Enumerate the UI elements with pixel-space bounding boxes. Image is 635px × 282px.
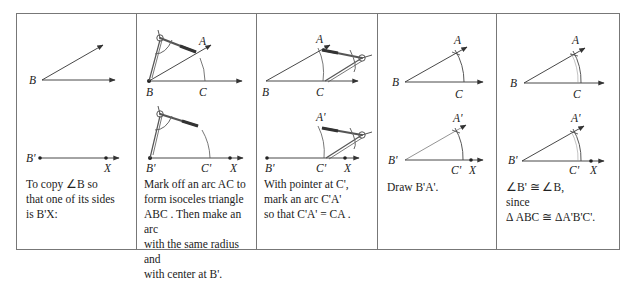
caption-line: so that C'A' = CA . xyxy=(264,207,376,222)
label-b: B xyxy=(262,86,269,98)
caption-step-4: Draw B'A'. xyxy=(387,180,493,195)
label-a: A xyxy=(453,34,462,46)
panel-4-top: A B C xyxy=(392,34,483,100)
caption-line: is B'X: xyxy=(26,207,132,222)
label-b-prime: B' xyxy=(388,154,398,166)
label-a: A xyxy=(571,34,580,46)
panel-1-angle-b: B xyxy=(29,45,115,86)
label-c-prime: C' xyxy=(201,162,212,174)
label-c: C xyxy=(316,86,324,98)
label-x: X xyxy=(103,162,112,174)
compass-icon xyxy=(322,128,372,159)
caption-step-3: With pointer at C', mark an arc C'A' so … xyxy=(264,177,376,222)
compass-icon xyxy=(149,30,196,81)
label-c: C xyxy=(573,88,581,100)
label-a-prime: A' xyxy=(570,112,581,124)
label-b-prime: B' xyxy=(265,162,275,174)
caption-line: Δ ABC ≅ ΔA'B'C'. xyxy=(506,210,618,225)
panel-5-bottom: A' B' C' X xyxy=(508,112,604,176)
label-a-prime: A' xyxy=(452,112,463,124)
caption-line: To copy ∠B so xyxy=(26,177,132,192)
label-c: C xyxy=(455,88,463,100)
caption-line: since xyxy=(506,195,618,210)
caption-line: that one of its sides xyxy=(26,192,132,207)
panel-1-ray-b-prime-x: B' X xyxy=(26,152,119,174)
caption-step-5: ∠B' ≅ ∠B, since Δ ABC ≅ ΔA'B'C'. xyxy=(506,180,618,225)
label-b: B xyxy=(29,74,36,86)
label-x: X xyxy=(343,162,352,174)
label-c-prime: C' xyxy=(569,164,580,176)
label-b: B xyxy=(146,86,153,98)
label-b-prime: B' xyxy=(26,152,36,164)
label-b: B xyxy=(392,76,399,88)
panel-4-bottom: A' B' C' X xyxy=(388,112,483,176)
label-b-prime: B' xyxy=(146,162,156,174)
label-b-prime: B' xyxy=(508,154,518,166)
label-a: A xyxy=(315,33,324,45)
panel-2-bottom: B' C' X xyxy=(146,106,243,174)
caption-step-2: Mark off an arc AC to form isoceles tria… xyxy=(144,177,256,282)
caption-line: with center at B'. xyxy=(144,267,256,282)
compass-icon xyxy=(150,106,198,158)
label-x: X xyxy=(229,162,238,174)
caption-line: ABC . Then make an arc xyxy=(144,207,256,237)
compass-icon xyxy=(322,50,372,82)
panel-2-top: A B C xyxy=(146,30,242,98)
label-c-prime: C' xyxy=(316,162,327,174)
label-x: X xyxy=(589,164,598,176)
label-a: A xyxy=(198,35,207,47)
panel-5-top: A B C xyxy=(510,34,604,100)
caption-line: form isoceles triangle xyxy=(144,192,256,207)
label-c: C xyxy=(199,86,207,98)
caption-line: ∠B' ≅ ∠B, xyxy=(506,180,618,195)
caption-line: mark an arc C'A' xyxy=(264,192,376,207)
caption-line: with the same radius and xyxy=(144,237,256,267)
caption-line: Draw B'A'. xyxy=(387,180,493,195)
panel-3-bottom: A' B' C' X xyxy=(265,111,372,174)
caption-step-1: To copy ∠B so that one of its sides is B… xyxy=(26,177,132,222)
label-b: B xyxy=(510,77,517,89)
label-x: X xyxy=(468,164,477,176)
label-c-prime: C' xyxy=(451,164,462,176)
label-a-prime: A' xyxy=(315,111,326,123)
caption-line: Mark off an arc AC to xyxy=(144,177,256,192)
caption-line: With pointer at C', xyxy=(264,177,376,192)
panel-3-top: A B C xyxy=(262,33,372,98)
